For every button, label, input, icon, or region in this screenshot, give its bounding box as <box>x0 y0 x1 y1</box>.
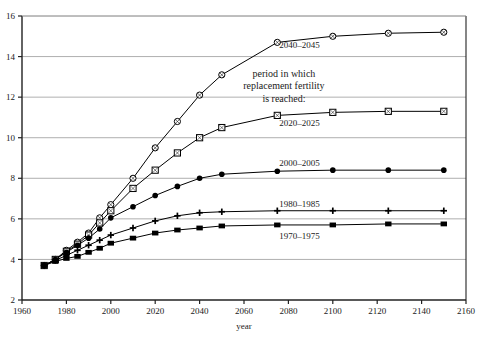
marker-square-filled <box>219 224 225 229</box>
marker-circle-filled <box>386 167 392 173</box>
x-tick-label-2060: 2060 <box>235 306 254 316</box>
series-label-2020–2025: 2020–2025 <box>279 118 320 128</box>
data-point-0-11 <box>219 72 225 78</box>
marker-circle-filled <box>197 175 203 181</box>
marker-circle-filled <box>219 171 225 177</box>
axis-title-layer: year <box>236 321 252 331</box>
x-tick-label-2020: 2020 <box>146 306 165 316</box>
data-point-4-1 <box>52 259 58 264</box>
marker-square-filled <box>41 263 47 268</box>
data-point-4-5 <box>97 246 103 251</box>
data-point-2-11 <box>219 171 225 177</box>
data-point-0-7 <box>130 175 136 181</box>
marker-circle-filled <box>175 184 181 190</box>
data-point-4-10 <box>196 226 202 231</box>
data-point-4-7 <box>130 236 136 241</box>
data-point-2-10 <box>197 175 203 181</box>
data-point-4-9 <box>174 228 180 233</box>
marker-circle-filled <box>441 167 447 173</box>
data-point-1-8 <box>152 167 158 173</box>
x-axis-title: year <box>236 321 252 331</box>
legend-note-line-1: replacement fertility <box>243 80 324 91</box>
marker-circle-filled <box>275 168 281 174</box>
data-point-4-8 <box>152 231 158 236</box>
data-point-2-8 <box>152 193 158 199</box>
data-point-0-9 <box>174 118 180 124</box>
y-tick-label-14: 14 <box>6 52 16 62</box>
data-point-4-13 <box>330 223 336 228</box>
x-tick-label-2160: 2160 <box>457 306 476 316</box>
data-point-1-10 <box>197 135 203 141</box>
y-tick-label-6: 6 <box>11 214 16 224</box>
y-tick-label-2: 2 <box>11 295 16 305</box>
x-tick-label-2000: 2000 <box>102 306 121 316</box>
data-point-4-6 <box>108 241 114 246</box>
data-point-2-6 <box>108 215 114 221</box>
marker-square-filled <box>85 250 91 255</box>
marker-square-filled <box>441 222 447 227</box>
data-point-1-6 <box>108 208 114 214</box>
y-tick-label-12: 12 <box>6 92 15 102</box>
x-tick-label-1960: 1960 <box>13 306 32 316</box>
data-point-0-8 <box>152 145 158 151</box>
data-point-2-12 <box>275 168 281 174</box>
data-point-0-6 <box>108 202 114 208</box>
marker-square-filled <box>108 241 114 246</box>
marker-circle-filled <box>152 193 158 199</box>
data-point-4-4 <box>85 250 91 255</box>
fertility-projection-chart: 246810121416 196019802000202020402060208… <box>0 0 487 341</box>
data-point-0-14 <box>385 30 391 36</box>
data-point-2-4 <box>86 235 92 241</box>
marker-circle-filled <box>330 167 336 173</box>
data-point-4-2 <box>63 256 69 261</box>
data-point-0-15 <box>441 29 447 35</box>
data-point-4-15 <box>441 222 447 227</box>
marker-square-filled <box>274 223 280 228</box>
data-point-2-13 <box>330 167 336 173</box>
data-point-1-5 <box>97 220 103 226</box>
series-label-2040–2045: 2040–2045 <box>279 40 320 50</box>
data-point-1-15 <box>441 108 447 114</box>
marker-square-filled <box>196 226 202 231</box>
x-tick-label-2120: 2120 <box>368 306 387 316</box>
marker-square-filled <box>74 254 80 259</box>
data-point-1-13 <box>330 109 336 115</box>
x-tick-label-2080: 2080 <box>279 306 298 316</box>
data-point-1-14 <box>385 108 391 114</box>
data-point-4-14 <box>385 222 391 227</box>
y-tick-label-16: 16 <box>6 11 16 21</box>
marker-circle-filled <box>130 204 136 210</box>
legend-note-line-2: is reached: <box>262 93 305 104</box>
marker-circle-filled <box>86 235 92 241</box>
data-point-4-0 <box>41 263 47 268</box>
marker-square-filled <box>174 228 180 233</box>
marker-square-filled <box>385 222 391 227</box>
y-tick-label-8: 8 <box>11 173 16 183</box>
data-point-4-11 <box>219 224 225 229</box>
data-point-2-14 <box>386 167 392 173</box>
data-point-2-9 <box>175 184 181 190</box>
x-tick-label-2140: 2140 <box>413 306 432 316</box>
data-point-2-15 <box>441 167 447 173</box>
data-point-4-12 <box>274 223 280 228</box>
marker-circle-filled <box>108 215 114 221</box>
data-point-2-5 <box>97 226 103 232</box>
y-tick-label-10: 10 <box>6 133 16 143</box>
data-point-1-9 <box>174 150 180 156</box>
data-point-1-7 <box>130 185 136 191</box>
x-tick-label-2040: 2040 <box>191 306 210 316</box>
marker-square-filled <box>330 223 336 228</box>
legend-note-line-0: period in which <box>253 68 316 79</box>
series-label-1980–1985: 1980–1985 <box>279 199 320 209</box>
marker-circle-filled <box>97 226 103 232</box>
data-point-0-13 <box>330 33 336 39</box>
marker-square-filled <box>52 259 58 264</box>
marker-square-filled <box>97 246 103 251</box>
chart-canvas: 246810121416 196019802000202020402060208… <box>0 0 487 341</box>
data-point-0-10 <box>197 92 203 98</box>
x-tick-label-1980: 1980 <box>57 306 76 316</box>
marker-square-filled <box>63 256 69 261</box>
marker-square-filled <box>152 231 158 236</box>
y-tick-label-4: 4 <box>11 255 16 265</box>
series-label-2000–2005: 2000–2005 <box>279 158 320 168</box>
